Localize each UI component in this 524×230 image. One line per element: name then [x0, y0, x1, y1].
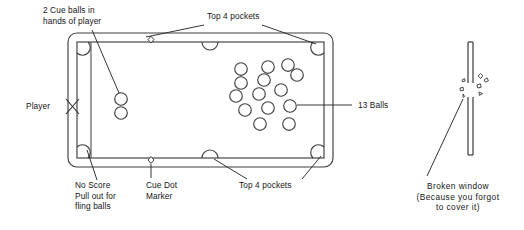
leader-bottom-pocket-left	[214, 159, 247, 179]
pool-table	[68, 33, 333, 167]
object-ball	[262, 102, 275, 115]
leader-lines	[87, 25, 463, 180]
leader-top-pocket-right	[262, 25, 316, 44]
object-ball	[283, 118, 296, 131]
glass-shard	[477, 84, 481, 88]
label-player: Player	[26, 101, 50, 112]
object-ball	[258, 74, 271, 87]
object-ball	[235, 63, 248, 76]
object-ball	[275, 84, 288, 97]
label-13-balls: 13 Balls	[358, 100, 388, 111]
label-cue-balls: 2 Cue balls in hands of player	[43, 5, 101, 26]
object-ball	[284, 100, 297, 113]
cue-ball	[115, 93, 128, 106]
pocket-corner-top-left	[77, 42, 90, 55]
object-ball	[291, 69, 304, 82]
diagram-canvas: 2 Cue balls in hands of player Top 4 poc…	[0, 0, 524, 230]
label-top-pockets-lower: Top 4 pockets	[239, 180, 292, 191]
object-ball	[239, 104, 252, 117]
object-ball	[254, 118, 267, 131]
cue-ball	[115, 107, 128, 120]
leader-no-score	[87, 150, 97, 180]
pocket-corner-top-right	[311, 42, 324, 55]
leader-broken-window	[427, 99, 463, 176]
leader-top-pocket-left	[146, 25, 204, 37]
glass-shard	[479, 92, 483, 95]
glass-shard	[484, 78, 488, 82]
pocket-corner-bottom-right	[311, 145, 324, 158]
object-ball	[262, 61, 275, 74]
object-ball-group	[230, 59, 304, 131]
glass-shard	[462, 79, 465, 82]
pocket-side-top	[202, 42, 218, 50]
leader-cue-balls	[92, 30, 119, 93]
label-no-score: No Score Pull out for fling balls	[75, 180, 116, 212]
object-ball	[282, 59, 295, 72]
glass-shard	[463, 94, 465, 97]
cue-ball-group	[115, 93, 128, 120]
glass-shard	[478, 73, 483, 78]
glass-shard	[460, 87, 463, 90]
broken-window-illustration	[460, 42, 488, 155]
glass-shard-group	[460, 73, 488, 97]
object-ball	[235, 77, 248, 90]
object-ball	[230, 90, 243, 103]
object-ball	[253, 88, 266, 101]
pocket-corner-bottom-left	[77, 145, 90, 158]
label-top-pockets-upper: Top 4 pockets	[207, 11, 260, 22]
label-cue-dot-marker: Cue Dot Marker	[146, 180, 177, 201]
label-broken-window: Broken window (Because you forgot to cov…	[396, 181, 520, 213]
pocket-side-bottom	[202, 150, 218, 158]
